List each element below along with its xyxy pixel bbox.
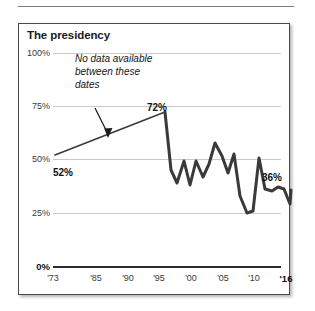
plot-area: 100% 75% 50% 25% 0% '73 '85 '90 '95 '00 … — [19, 24, 291, 296]
chart-figure-box: The presidency 100% 75% 50% 25% 0% '73 '… — [18, 23, 290, 295]
callout-peak-value: 72% — [147, 102, 167, 113]
annotation-arrow-icon — [95, 108, 112, 138]
callout-start-value: 52% — [53, 167, 73, 178]
no-data-annotation: No data available between these dates — [75, 52, 167, 92]
figure-page: The presidency 100% 75% 50% 25% 0% '73 '… — [0, 0, 315, 311]
series-main-line — [165, 112, 291, 213]
callout-end-value: 36% — [262, 172, 282, 183]
page-top-rule — [18, 6, 294, 7]
